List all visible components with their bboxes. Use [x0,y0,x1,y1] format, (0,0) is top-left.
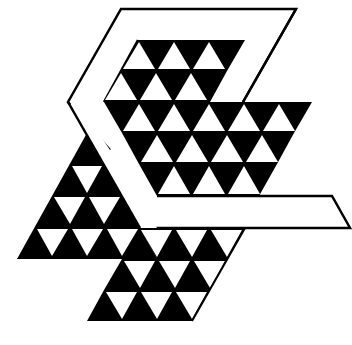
horizontal-bar [140,196,350,228]
outline-inner-right [243,9,296,102]
upper-mosaic [104,40,312,196]
triangle-mosaic-logo [0,0,352,345]
